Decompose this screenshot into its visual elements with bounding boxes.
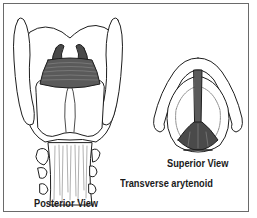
- superior-view-label: Superior View: [167, 157, 228, 169]
- posterior-view-drawing: [14, 18, 123, 205]
- posterior-view-label: Posterior View: [34, 197, 98, 209]
- trachea: [48, 143, 92, 205]
- vocal-fold-strip: [194, 70, 202, 125]
- muscle-annotation-label: Transverse arytenoid: [120, 177, 213, 189]
- transverse-arytenoid-muscle-posterior: [40, 58, 100, 88]
- superior-view-drawing: [154, 58, 243, 152]
